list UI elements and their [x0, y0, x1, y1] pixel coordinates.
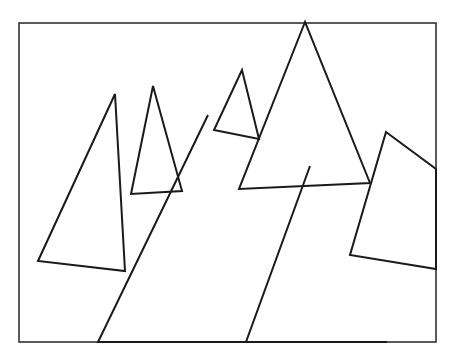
triangle-tall-center: [239, 22, 370, 189]
figure-canvas: [0, 0, 451, 353]
triangle-small-top: [214, 70, 259, 139]
triangles-diagram: [0, 0, 451, 353]
shapes-group: [38, 22, 436, 342]
frame-border: [19, 23, 436, 342]
triangle-small-left: [131, 86, 182, 194]
quad-right: [350, 132, 436, 269]
triangle-left: [38, 94, 125, 271]
triangle-bottom-right: [246, 166, 387, 342]
